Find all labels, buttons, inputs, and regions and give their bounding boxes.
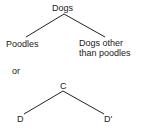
node-dogs: Dogs	[52, 3, 73, 13]
node-dprime: D'	[104, 114, 112, 124]
edge-c-d	[24, 91, 63, 114]
edge-dogs-other	[64, 14, 105, 37]
separator-or: or	[12, 66, 20, 76]
node-c: C	[60, 81, 67, 91]
node-dogs-other-line2: than poodles	[79, 48, 131, 58]
edge-dogs-poodles	[26, 14, 64, 37]
tree-lines	[0, 0, 144, 129]
node-dogs-other-line1: Dogs other	[79, 38, 123, 48]
edge-c-dprime	[63, 91, 104, 114]
node-poodles: Poodles	[6, 39, 39, 49]
node-d: D	[17, 114, 24, 124]
